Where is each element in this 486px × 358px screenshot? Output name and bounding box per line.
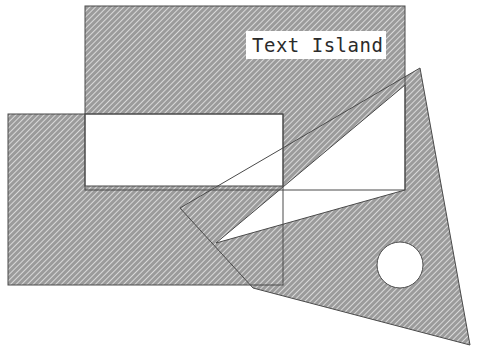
- drawing-canvas: Text Island: [0, 0, 486, 358]
- cad-drawing-svg: Text Island: [0, 0, 486, 358]
- text-island-label: Text Island: [252, 34, 383, 56]
- text-island: Text Island: [246, 31, 386, 59]
- hatched-region: [0, 0, 486, 358]
